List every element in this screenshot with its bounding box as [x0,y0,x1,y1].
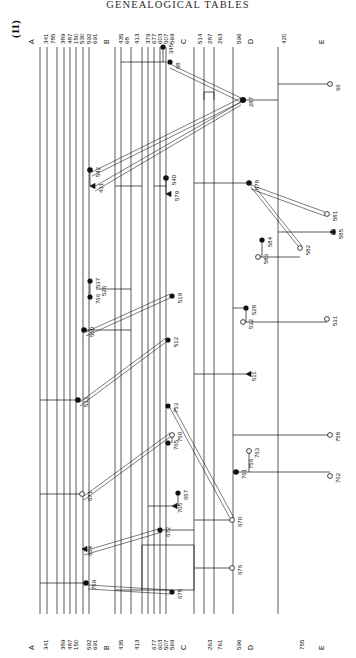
node-label: 581 [332,211,338,221]
tick-label: 413 [134,640,140,650]
node-label: 765 [173,440,179,450]
node-label: 584 [267,237,273,247]
tick-label: 761 [217,640,223,650]
tick-label: 263 [207,640,213,650]
tick-label: 68 [124,37,130,44]
node-label: 705 [177,503,183,513]
group-letter-C-top: C [180,39,187,44]
node-label: 532 [248,319,254,329]
node-label: 657 [183,490,189,500]
double-link-lines [80,64,325,594]
node-label: 531 [332,316,338,326]
tick-label: 596 [236,34,242,44]
node-label: 758 [335,432,341,442]
node-label: 762 [335,473,341,483]
node-label: 519 [177,293,183,303]
node-label: 540 [171,175,177,185]
node-label: 512 [173,337,179,347]
node-label: 526 [101,286,107,296]
group-letter-A-bottom: A [28,645,35,650]
node-label: 766 [95,294,101,304]
group-letter-C-bottom: C [180,645,187,650]
plate-page: GENEALOGICAL TABLES (11) [0,0,356,658]
group-letter-A-top: A [28,39,35,44]
node-label: 66 [335,84,341,91]
node-label: 287 [248,97,254,107]
tick-label: 389 [60,34,66,44]
node-label: 550 [89,327,95,337]
node-label: 670 [237,517,243,527]
node-label: 578 [254,180,260,190]
tick-label: 389 [60,640,66,650]
node-label: 533 [83,397,89,407]
tick-label: 420 [281,34,287,44]
tick-label: 569 [169,640,175,650]
node-label: 345 [168,44,174,54]
node-label: 675 [177,589,183,599]
diagram-canvas [0,0,356,658]
group-letter-D-top: D [247,39,254,44]
tick-label: 150 [73,640,79,650]
node-label: 583 [263,254,269,264]
node-label: 753 [173,403,179,413]
node-label: 763 [254,448,260,458]
tick-label: 691 [92,640,98,650]
tick-label: 569 [169,34,175,44]
node-label: 528 [251,305,257,315]
node-label: 759 [91,580,97,590]
node-label: 654 [87,546,93,556]
node-label: 671 [87,491,93,501]
node-label: 537 [95,278,101,288]
node-label: 542 [95,167,101,177]
group-letter-B-bottom: B [103,645,110,650]
tick-label: 435 [118,640,124,650]
node-label: 676 [237,565,243,575]
connector-lines [40,47,333,590]
node-label: 511 [251,371,257,381]
node-label: 579 [174,191,180,201]
tick-label: 341 [43,640,49,650]
tick-label: 341 [43,34,49,44]
tick-label: 413 [134,34,140,44]
tick-label: 263 [217,34,223,44]
tick-label: 785 [50,34,56,44]
group-letter-E-bottom: E [318,645,325,650]
tick-label: 755 [299,640,305,650]
node-label: 431 [98,183,104,193]
tick-label: 530 [79,34,85,44]
tick-label: 287 [207,34,213,44]
node-label: 761 [241,469,247,479]
group-letter-D-bottom: D [247,645,254,650]
tick-label: 691 [92,34,98,44]
tick-label: 514 [197,34,203,44]
node-label: 68 [175,62,181,69]
node-label: 756 [248,459,254,469]
node-label: 585 [338,229,344,239]
arrow-markers [82,183,335,551]
node-label: 672 [165,527,171,537]
node-label: 582 [305,245,311,255]
group-letter-B-top: B [103,39,110,44]
group-letter-E-top: E [318,39,325,44]
tick-label: 596 [236,640,242,650]
